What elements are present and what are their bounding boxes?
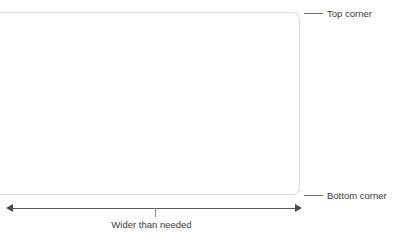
bottom-corner-label: Bottom corner bbox=[327, 190, 387, 201]
bottom-corner-leader-line bbox=[304, 195, 323, 196]
width-dimension-center-tick bbox=[155, 208, 156, 217]
arrow-right-icon bbox=[295, 204, 302, 212]
top-corner-label: Top corner bbox=[327, 8, 372, 19]
top-corner-leader-line bbox=[304, 13, 323, 14]
width-dimension-label: Wider than needed bbox=[0, 219, 303, 231]
diagram-canvas: Top corner Bottom corner Wider than need… bbox=[0, 0, 420, 243]
arrow-left-icon bbox=[6, 204, 13, 212]
rounded-rectangle-shape bbox=[0, 12, 300, 195]
